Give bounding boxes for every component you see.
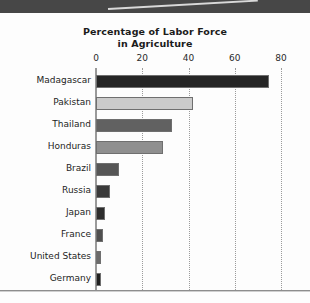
x-tick-label-60: 60 [229, 53, 240, 63]
bar-row: Madagascar [96, 70, 281, 92]
bar-row: Brazil [96, 158, 281, 180]
plot-area: 020406080 MadagascarPakistanThailandHond… [96, 70, 281, 290]
page-bottom-rule-shadow [0, 291, 310, 292]
chart-title-line-1: Percentage of Labor Force [0, 26, 310, 38]
bar-madagascar [96, 75, 269, 88]
bar-japan [96, 207, 105, 220]
bar-russia [96, 185, 110, 198]
x-tick-label-80: 80 [275, 53, 286, 63]
bar-france [96, 229, 103, 242]
category-label-brazil: Brazil [66, 162, 91, 175]
x-tick-label-0: 0 [93, 53, 99, 63]
bar-row: Japan [96, 202, 281, 224]
category-label-united-states: United States [30, 250, 91, 263]
bar-row: Germany [96, 268, 281, 290]
bar-row: France [96, 224, 281, 246]
bar-row: Russia [96, 180, 281, 202]
x-tick-label-20: 20 [137, 53, 148, 63]
bar-row: Honduras [96, 136, 281, 158]
gridline-80 [281, 68, 283, 290]
chart-title-line-2: in Agriculture [0, 38, 310, 50]
bar-row: United States [96, 246, 281, 268]
scanned-page: Percentage of Labor Force in Agriculture… [0, 0, 310, 303]
scan-artifact-line [108, 0, 258, 9]
bar-germany [96, 273, 101, 286]
bar-row: Pakistan [96, 92, 281, 114]
bar-brazil [96, 163, 119, 176]
bar-chart: Percentage of Labor Force in Agriculture… [0, 13, 310, 290]
bar-row: Thailand [96, 114, 281, 136]
category-label-russia: Russia [62, 184, 91, 197]
x-tick-label-40: 40 [183, 53, 194, 63]
category-label-france: France [61, 228, 91, 241]
bar-pakistan [96, 97, 193, 110]
bar-honduras [96, 141, 163, 154]
page-top-band [0, 0, 310, 13]
category-label-japan: Japan [66, 206, 91, 219]
category-label-madagascar: Madagascar [36, 74, 91, 87]
bar-thailand [96, 119, 172, 132]
category-label-pakistan: Pakistan [53, 96, 91, 109]
bar-united-states [96, 251, 101, 264]
category-label-thailand: Thailand [52, 118, 91, 131]
chart-title: Percentage of Labor Force in Agriculture [0, 26, 310, 49]
category-label-germany: Germany [50, 272, 91, 285]
category-label-honduras: Honduras [48, 140, 91, 153]
